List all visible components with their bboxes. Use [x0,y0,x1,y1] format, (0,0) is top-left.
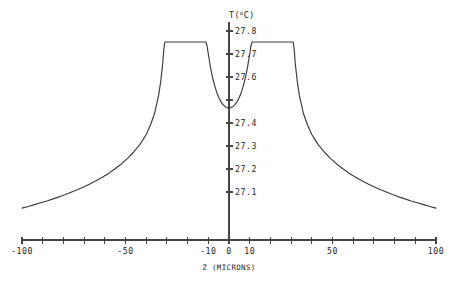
temperature-profile-chart: -100-50-1001050100 27.827.727.627.427.32… [0,0,455,282]
y-axis-tick-label: 27.2 [235,164,257,174]
y-axis-tick-label: 27.7 [235,49,257,59]
x-axis-tick-label: 0 [226,246,232,256]
y-axis-tick-label: 27.1 [235,187,257,197]
chart-figure: -100-50-1001050100 27.827.727.627.427.32… [0,0,455,282]
y-axis-tick-label: 27.4 [235,118,257,128]
svg-text:T(oC): T(oC) [229,10,255,20]
y-axis-title-main: T( [229,10,240,20]
y-axis-title: T(oC) [229,10,255,20]
x-axis-tick-label: 10 [244,246,255,256]
x-axis-tick-label: 50 [327,246,338,256]
y-axis-tick-labels: 27.827.727.627.427.327.227.1 [235,26,257,197]
y-axis-group [226,22,233,240]
y-axis-tick-label: 27.8 [235,26,257,36]
x-axis-title: Z (MICRONS) [202,263,255,272]
x-axis-tick-label: -10 [200,246,217,256]
y-axis-tick-label: 27.3 [235,141,257,151]
x-axis-tick-label: -100 [11,246,33,256]
x-axis-tick-label: 100 [428,246,445,256]
x-axis-tick-labels: -100-50-1001050100 [11,246,444,256]
y-axis-title-tail: C) [244,10,255,20]
x-axis-tick-label: -50 [117,246,134,256]
